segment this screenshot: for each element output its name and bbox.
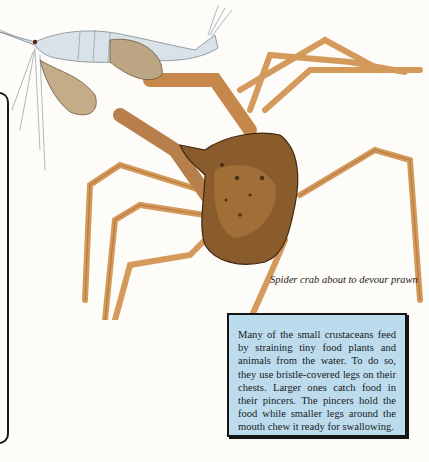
info-box-text: Many of the small crustaceans feed by st… xyxy=(238,328,396,434)
page: Spider crab about to devour prawn Many o… xyxy=(0,0,429,462)
spider-crab-illustration xyxy=(0,0,429,320)
illustration-caption: Spider crab about to devour prawn xyxy=(270,274,418,285)
info-box: Many of the small crustaceans feed by st… xyxy=(227,313,407,437)
